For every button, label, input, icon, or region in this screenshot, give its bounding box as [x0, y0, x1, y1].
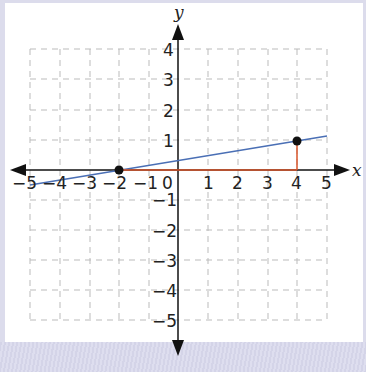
svg-text:−2: −2: [102, 173, 127, 193]
arrow-right-icon: [334, 164, 350, 176]
svg-text:−1: −1: [152, 190, 177, 210]
point-4-1: [293, 137, 302, 146]
svg-text:1: 1: [163, 131, 174, 151]
svg-text:−3: −3: [152, 251, 177, 271]
svg-text:4: 4: [291, 173, 302, 193]
svg-text:1: 1: [203, 173, 214, 193]
svg-text:−2: −2: [152, 221, 177, 241]
svg-text:2: 2: [232, 173, 243, 193]
svg-text:−5: −5: [152, 311, 177, 331]
svg-text:−4: −4: [152, 281, 177, 301]
y-axis-label: y: [173, 2, 184, 22]
svg-text:3: 3: [262, 173, 273, 193]
svg-text:4: 4: [163, 40, 174, 60]
svg-text:3: 3: [163, 70, 174, 90]
svg-text:−3: −3: [72, 173, 97, 193]
coordinate-plane: y x −5 −4 −3 −2 −1 0 1 2 3 4 5 4 3 2 1 −…: [0, 0, 366, 372]
svg-text:2: 2: [163, 101, 174, 121]
svg-text:−5: −5: [12, 173, 37, 193]
x-axis-label: x: [352, 160, 362, 180]
svg-text:5: 5: [321, 173, 332, 193]
arrow-down-icon: [172, 340, 184, 356]
svg-text:−4: −4: [42, 173, 67, 193]
arrow-up-icon: [172, 24, 184, 40]
